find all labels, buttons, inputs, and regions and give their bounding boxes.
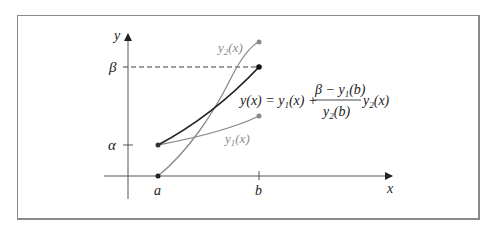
y-axis-label: y	[112, 28, 121, 43]
formula-trail: y2(x)	[361, 93, 390, 110]
formula-numerator: β − y1(b)	[314, 82, 366, 99]
tick-label-b: b	[255, 183, 262, 198]
point-alpha	[156, 143, 161, 148]
x-axis-label: x	[386, 181, 394, 196]
formula-denominator: y2(b)	[321, 104, 350, 121]
point-beta	[256, 64, 262, 70]
shooting-method-diagram: y x a b β α y2(x) y1(x) y(x) = y1(x) + β…	[0, 0, 497, 232]
point-y1-end	[257, 114, 262, 119]
tick-label-beta: β	[108, 59, 117, 75]
label-y1: y1(x)	[223, 131, 250, 148]
label-y2: y2(x)	[216, 40, 243, 57]
tick-label-a: a	[154, 183, 161, 198]
point-y2-end	[257, 40, 262, 45]
curve-y2	[158, 42, 259, 176]
point-a	[156, 174, 161, 179]
formula-lhs: y(x) = y1(x) +	[238, 93, 317, 110]
tick-label-alpha: α	[108, 137, 117, 153]
